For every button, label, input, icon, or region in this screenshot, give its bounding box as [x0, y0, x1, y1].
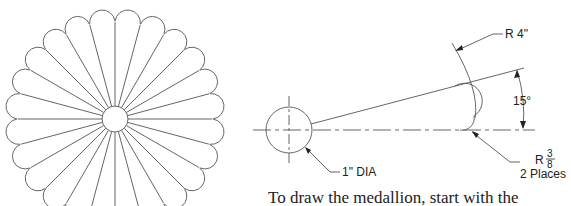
places-label: 2 Places: [520, 167, 566, 181]
r4-arc: [452, 43, 476, 118]
r4-leader: [458, 34, 503, 50]
medallion-hub: [102, 106, 128, 132]
r38-numerator: 3: [547, 148, 553, 159]
caption-text: To draw the medallion, start with the: [268, 188, 518, 206]
dia-label: 1" DIA: [342, 165, 376, 179]
angle-line: [311, 68, 524, 124]
medallion-drawing: [6, 10, 224, 206]
petal-tip-arc: [455, 83, 482, 130]
arrowheads: [305, 45, 526, 154]
angle-label: 15°: [513, 94, 531, 108]
r38-leader: [472, 132, 520, 162]
construction-detail: [253, 34, 535, 172]
drawing-canvas: R 4" 15° 1" DIA R 3 8 2 Places: [0, 0, 571, 206]
r38-prefix: R: [535, 153, 544, 167]
r4-label: R 4": [505, 27, 528, 41]
dia-leader: [306, 148, 340, 172]
